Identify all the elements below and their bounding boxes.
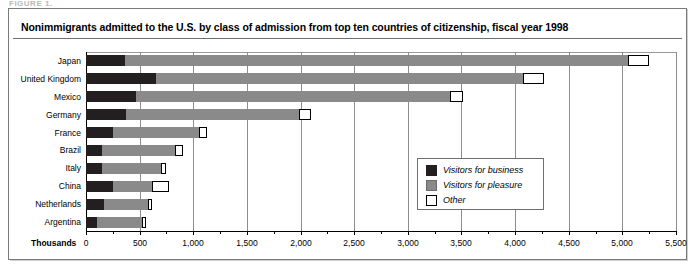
x-tick-minor	[649, 231, 650, 234]
legend-swatch-pleasure-icon	[426, 180, 437, 191]
bar-segment	[86, 145, 102, 156]
x-tick-label: 4,000	[504, 238, 525, 248]
bar-segment	[126, 109, 300, 120]
bar-segment	[136, 91, 450, 102]
legend-label-other: Other	[443, 195, 466, 205]
bar-segment	[86, 73, 156, 84]
x-tick-label: 1,000	[182, 238, 203, 248]
x-tick	[140, 231, 141, 235]
bar-segment	[199, 127, 208, 138]
bar-segment	[86, 163, 102, 174]
x-tick	[193, 231, 194, 235]
bar-segment	[156, 73, 523, 84]
bar-segment	[86, 55, 125, 66]
bar-segment	[113, 181, 152, 192]
x-tick-label: 5,500	[665, 238, 686, 248]
bar-segment	[175, 145, 183, 156]
x-tick-minor	[327, 231, 328, 234]
bar-segment	[102, 163, 161, 174]
legend-label-business: Visitors for business	[443, 165, 523, 175]
bar-row	[0, 163, 696, 174]
x-tick-minor	[435, 231, 436, 234]
x-tick-minor	[381, 231, 382, 234]
bar-segment	[86, 127, 113, 138]
x-tick	[86, 231, 87, 235]
x-tick	[622, 231, 623, 235]
x-tick-label: 0	[84, 238, 89, 248]
chart-title: Nonimmigrants admitted to the U.S. by cl…	[21, 21, 568, 33]
bar-segment	[299, 109, 311, 120]
x-tick	[354, 231, 355, 235]
x-tick	[676, 231, 677, 235]
bar-segment	[148, 199, 152, 210]
figure-container: FIGURE 1. Nonimmigrants admitted to the …	[0, 0, 696, 269]
legend-swatch-business-icon	[426, 165, 437, 176]
title-divider	[13, 38, 682, 39]
x-tick-minor	[542, 231, 543, 234]
bar-row	[0, 199, 696, 210]
chart-legend: Visitors for business Visitors for pleas…	[417, 158, 544, 210]
x-tick-minor	[274, 231, 275, 234]
bar-segment	[104, 199, 147, 210]
x-tick-label: 2,500	[343, 238, 364, 248]
bar-segment	[113, 127, 198, 138]
legend-item-other: Other	[426, 194, 466, 206]
bar-segment	[102, 145, 175, 156]
x-tick-minor	[113, 231, 114, 234]
x-tick-label: 500	[133, 238, 147, 248]
bar-segment	[86, 91, 136, 102]
x-tick	[569, 231, 570, 235]
bar-row	[0, 217, 696, 228]
legend-item-pleasure: Visitors for pleasure	[426, 179, 522, 191]
units-label: Thousands	[31, 238, 76, 248]
bar-segment	[86, 199, 104, 210]
bar-segment	[86, 109, 126, 120]
x-tick-label: 3,000	[397, 238, 418, 248]
x-tick-label: 3,500	[450, 238, 471, 248]
x-tick-label: 4,500	[558, 238, 579, 248]
bar-row	[0, 145, 696, 156]
bar-segment	[523, 73, 544, 84]
x-tick	[408, 231, 409, 235]
bar-segment	[152, 181, 169, 192]
x-tick	[301, 231, 302, 235]
x-tick-label: 5,000	[611, 238, 632, 248]
bar-segment	[97, 217, 142, 228]
bar-row	[0, 55, 696, 66]
bar-segment	[628, 55, 649, 66]
bar-segment	[142, 217, 146, 228]
x-tick	[461, 231, 462, 235]
bar-segment	[161, 163, 166, 174]
legend-swatch-other-icon	[426, 195, 437, 206]
x-tick-minor	[596, 231, 597, 234]
bar-segment	[86, 181, 113, 192]
x-tick-minor	[166, 231, 167, 234]
x-tick	[247, 231, 248, 235]
bar-row	[0, 73, 696, 84]
bar-segment	[125, 55, 628, 66]
legend-item-business: Visitors for business	[426, 164, 523, 176]
figure-tag: FIGURE 1.	[9, 0, 129, 7]
bar-row	[0, 109, 696, 120]
x-tick-minor	[220, 231, 221, 234]
x-tick	[515, 231, 516, 235]
x-tick-minor	[488, 231, 489, 234]
bar-row	[0, 127, 696, 138]
x-tick-label: 1,500	[236, 238, 257, 248]
legend-label-pleasure: Visitors for pleasure	[443, 180, 522, 190]
x-tick-label: 2,000	[290, 238, 311, 248]
bar-segment	[450, 91, 463, 102]
bar-segment	[86, 217, 97, 228]
bar-row	[0, 91, 696, 102]
bar-row	[0, 181, 696, 192]
